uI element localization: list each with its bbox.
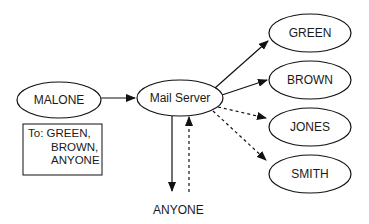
recipient-line-1: To: GREEN, [28, 127, 104, 141]
node-jones-label: JONES [290, 120, 330, 134]
edge-server-to-brown [222, 80, 267, 95]
node-green-label: GREEN [289, 26, 332, 40]
node-malone: MALONE [17, 82, 101, 118]
node-mail-server: Mail Server [137, 80, 223, 116]
node-green: GREEN [269, 14, 351, 52]
node-brown-label: BROWN [287, 73, 333, 87]
diagram-canvas: MALONE Mail Server GREEN BROWN JONES SMI… [0, 0, 369, 224]
node-smith-label: SMITH [291, 167, 328, 181]
node-malone-label: MALONE [34, 93, 85, 107]
edge-server-to-smith [213, 111, 266, 160]
node-smith: SMITH [269, 155, 351, 193]
node-mail-server-label: Mail Server [150, 91, 211, 105]
edge-server-to-jones [218, 107, 266, 118]
recipient-line-3: ANYONE [28, 154, 104, 168]
node-jones: JONES [269, 108, 351, 146]
recipient-line-2: BROWN, [28, 141, 104, 155]
edge-server-to-green [215, 41, 268, 88]
node-brown: BROWN [269, 61, 351, 99]
node-anyone-label: ANYONE [153, 203, 204, 217]
recipient-box-text: To: GREEN, BROWN, ANYONE [28, 127, 104, 168]
